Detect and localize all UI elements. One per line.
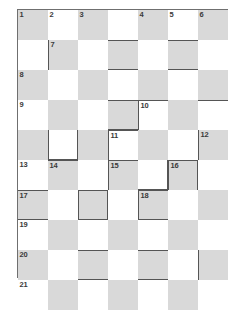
crossword-cell[interactable] [108, 250, 138, 280]
crossword-cell[interactable] [48, 220, 78, 250]
crossword-cell-numbered[interactable]: 18 [138, 190, 168, 220]
crossword-cell[interactable] [168, 250, 198, 280]
crossword-cell-numbered[interactable]: 15 [108, 160, 138, 190]
crossword-cell[interactable] [198, 70, 228, 100]
crossword-cell[interactable] [198, 160, 228, 190]
crossword-cell[interactable] [168, 100, 198, 130]
crossword-cell[interactable] [168, 40, 198, 70]
crossword-cell[interactable] [78, 40, 108, 70]
crossword-cell-container: 123456789101112131415161718192021 [18, 10, 227, 277]
crossword-cell[interactable] [198, 100, 228, 130]
cell-number: 15 [111, 161, 119, 170]
cell-number: 19 [20, 220, 28, 229]
crossword-cell[interactable] [198, 40, 228, 70]
cell-number: 11 [111, 131, 119, 140]
crossword-cell-numbered[interactable]: 8 [18, 70, 48, 100]
crossword-cell[interactable] [48, 130, 78, 160]
cell-number: 1 [20, 10, 24, 19]
crossword-cell-numbered[interactable]: 19 [18, 220, 48, 250]
cell-number: 20 [20, 250, 28, 259]
crossword-cell[interactable] [138, 250, 168, 280]
crossword-cell[interactable] [168, 280, 198, 310]
cell-number: 14 [50, 161, 58, 170]
crossword-cell[interactable] [48, 190, 78, 220]
crossword-cell[interactable] [138, 220, 168, 250]
crossword-cell[interactable] [108, 280, 138, 310]
cell-number: 13 [20, 160, 28, 169]
crossword-cell[interactable] [138, 40, 168, 70]
cell-number: 5 [170, 10, 174, 19]
crossword-cell-numbered[interactable]: 5 [168, 10, 198, 40]
crossword-cell[interactable] [78, 220, 108, 250]
cell-number: 3 [80, 10, 84, 19]
crossword-cell-numbered[interactable]: 7 [48, 40, 78, 70]
cell-number: 7 [51, 40, 55, 49]
crossword-cell[interactable] [108, 70, 138, 100]
crossword-cell-numbered[interactable]: 6 [198, 10, 228, 40]
crossword-cell[interactable] [78, 130, 108, 160]
crossword-cell[interactable] [78, 160, 108, 190]
cell-number: 10 [141, 101, 149, 110]
cell-number: 4 [140, 10, 144, 19]
crossword-cell-numbered[interactable]: 2 [48, 10, 78, 40]
crossword-cell[interactable] [108, 100, 138, 130]
crossword-cell[interactable] [168, 190, 198, 220]
crossword-cell-numbered[interactable]: 21 [18, 280, 48, 310]
crossword-cell-numbered[interactable]: 16 [168, 160, 198, 190]
cell-number: 12 [201, 130, 209, 139]
crossword-cell[interactable] [198, 280, 228, 310]
cell-number: 8 [20, 70, 24, 79]
crossword-cell-numbered[interactable]: 12 [198, 130, 228, 160]
crossword-cell-numbered[interactable]: 1 [18, 10, 48, 40]
crossword-cell-numbered[interactable]: 3 [78, 10, 108, 40]
cell-number: 2 [50, 10, 54, 19]
crossword-cell[interactable] [108, 190, 138, 220]
crossword-cell-numbered[interactable]: 10 [138, 100, 168, 130]
crossword-cell[interactable] [78, 190, 108, 220]
crossword-cell[interactable] [168, 220, 198, 250]
crossword-cell-numbered[interactable]: 4 [138, 10, 168, 40]
cell-number: 18 [141, 191, 149, 200]
cell-number: 9 [20, 100, 24, 109]
crossword-cell[interactable] [138, 160, 168, 190]
crossword-cell[interactable] [108, 10, 138, 40]
crossword-cell[interactable] [48, 250, 78, 280]
crossword-cell[interactable] [78, 250, 108, 280]
crossword-cell[interactable] [138, 130, 168, 160]
crossword-cell[interactable] [168, 130, 198, 160]
crossword-cell[interactable] [168, 70, 198, 100]
crossword-grid-frame: 123456789101112131415161718192021 [17, 9, 228, 278]
crossword-cell[interactable] [48, 280, 78, 310]
crossword-cell[interactable] [108, 40, 138, 70]
crossword-cell[interactable] [198, 190, 228, 220]
crossword-cell-numbered[interactable]: 20 [18, 250, 48, 280]
crossword-cell-numbered[interactable]: 14 [48, 160, 78, 190]
cell-number: 16 [171, 161, 179, 170]
crossword-cell-numbered[interactable]: 17 [18, 190, 48, 220]
crossword-cell-numbered[interactable]: 13 [18, 160, 48, 190]
crossword-cell[interactable] [78, 100, 108, 130]
crossword-cell[interactable] [138, 70, 168, 100]
crossword-cell-numbered[interactable]: 9 [18, 100, 48, 130]
crossword-cell[interactable] [138, 280, 168, 310]
crossword-cell[interactable] [198, 250, 228, 280]
crossword-cell-numbered[interactable]: 11 [108, 130, 138, 160]
crossword-cell[interactable] [78, 280, 108, 310]
crossword-cell[interactable] [18, 40, 48, 70]
crossword-cell[interactable] [18, 130, 48, 160]
crossword-cell[interactable] [78, 70, 108, 100]
cell-number: 6 [200, 10, 204, 19]
cell-number: 21 [20, 280, 28, 289]
crossword-cell[interactable] [48, 70, 78, 100]
crossword-cell[interactable] [198, 220, 228, 250]
cell-number: 17 [20, 191, 28, 200]
crossword-cell[interactable] [48, 100, 78, 130]
crossword-cell[interactable] [108, 220, 138, 250]
